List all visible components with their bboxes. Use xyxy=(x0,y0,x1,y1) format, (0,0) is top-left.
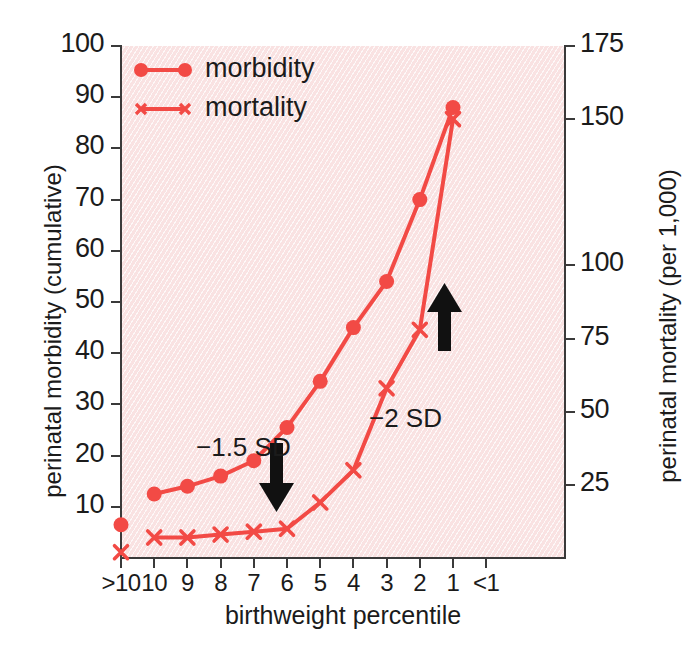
data-point-morbidity xyxy=(147,487,162,502)
data-point-morbidity xyxy=(114,517,129,532)
legend-label-morbidity: morbidity xyxy=(205,53,315,84)
data-point-morbidity xyxy=(180,479,195,494)
legend-label-mortality: mortality xyxy=(205,92,307,123)
data-point-morbidity xyxy=(213,469,228,484)
data-point-morbidity xyxy=(379,274,394,289)
series-line-mortality xyxy=(154,119,453,537)
legend-line-circle-icon xyxy=(133,56,193,84)
data-point-mortality xyxy=(314,496,327,509)
y-axis-left-title: perinatal morbidity (cumulative) xyxy=(39,111,67,551)
legend-line-x-icon xyxy=(133,95,193,123)
data-point-mortality xyxy=(115,546,128,559)
data-point-morbidity xyxy=(346,320,361,335)
data-point-morbidity xyxy=(412,192,427,207)
annotation-label-minus-1-5-sd: −1.5 SD xyxy=(196,432,291,463)
y-axis-right-title: perinatal mortality (per 1,000) xyxy=(654,106,682,546)
data-point-morbidity xyxy=(313,374,328,389)
series-morbidity xyxy=(114,100,461,532)
x-axis-title: birthweight percentile xyxy=(121,601,565,630)
arrow-up-icon xyxy=(427,283,462,351)
annotation-label-minus-2-sd: −2 SD xyxy=(369,403,442,434)
